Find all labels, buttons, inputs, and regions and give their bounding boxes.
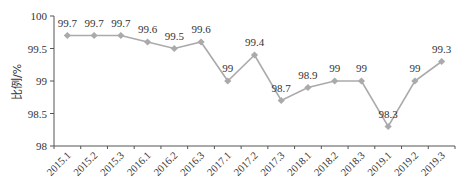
- data-label: 99.6: [191, 23, 211, 35]
- x-tick-label: 2015.1: [45, 150, 73, 178]
- x-tick-label: 2015.3: [98, 150, 126, 178]
- x-tick-label: 2018.1: [285, 150, 313, 178]
- x-tick-label: 2016.2: [152, 150, 180, 178]
- diamond-marker: [91, 32, 98, 39]
- x-tick-label: 2017.2: [232, 150, 260, 178]
- diamond-marker: [117, 32, 124, 39]
- diamond-marker: [64, 32, 71, 39]
- y-tick-label: 100: [31, 10, 48, 22]
- data-label: 99.4: [245, 36, 265, 48]
- x-tick-label: 2018.3: [339, 150, 367, 178]
- data-label: 98.9: [298, 69, 318, 81]
- line-chart: 9898.59999.5100比例/%2015.12015.22015.3201…: [0, 0, 470, 189]
- diamond-marker: [358, 77, 365, 84]
- data-label: 99: [329, 62, 341, 74]
- diamond-marker: [331, 77, 338, 84]
- y-tick-label: 99.5: [28, 43, 48, 55]
- x-tick-label: 2019.1: [365, 150, 393, 178]
- data-label: 98.3: [379, 108, 399, 120]
- x-tick-label: 2019.3: [419, 150, 447, 178]
- data-label: 99.3: [432, 43, 452, 55]
- data-label: 99.7: [58, 17, 78, 29]
- diamond-marker: [385, 123, 392, 130]
- data-label: 99.7: [84, 17, 104, 29]
- x-tick-label: 2015.2: [71, 150, 99, 178]
- data-label: 99.6: [138, 23, 158, 35]
- diamond-marker: [278, 97, 285, 104]
- data-label: 99: [409, 62, 421, 74]
- diamond-marker: [144, 38, 151, 45]
- data-label: 99.7: [111, 17, 131, 29]
- data-label: 99: [222, 62, 234, 74]
- x-tick-label: 2017.1: [205, 150, 233, 178]
- x-tick-label: 2017.3: [258, 150, 286, 178]
- x-tick-label: 2019.2: [392, 150, 420, 178]
- x-tick-label: 2018.2: [312, 150, 340, 178]
- y-axis-label: 比例/%: [10, 64, 24, 100]
- diamond-marker: [171, 45, 178, 52]
- x-tick-label: 2016.1: [125, 150, 153, 178]
- diamond-marker: [304, 84, 311, 91]
- y-tick-label: 98: [36, 140, 48, 152]
- data-label: 99: [356, 62, 368, 74]
- data-label: 99.5: [165, 30, 185, 42]
- y-tick-label: 99: [36, 75, 48, 87]
- x-tick-label: 2016.3: [178, 150, 206, 178]
- data-label: 98.7: [272, 82, 292, 94]
- y-tick-label: 98.5: [28, 108, 48, 120]
